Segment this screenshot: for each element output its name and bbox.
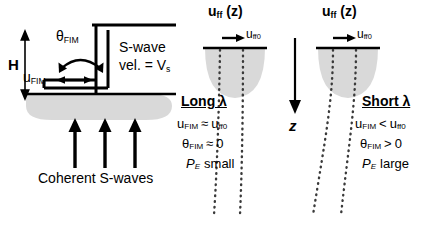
right-panel-header: uff (z) bbox=[322, 4, 357, 19]
shear-velocity-text: vel. = V bbox=[119, 57, 166, 73]
soil-body-left bbox=[26, 94, 172, 120]
translation-subscript: FIM bbox=[31, 76, 46, 86]
condition-rotation-middle: θFIM≈0 bbox=[182, 137, 223, 152]
uff0-subscript-middle: ff0 bbox=[253, 32, 261, 41]
surface-motion-label-middle: uff0 bbox=[246, 28, 261, 41]
wave-arrow bbox=[99, 118, 112, 168]
height-dimension-arrow bbox=[21, 31, 28, 99]
rotation-symbol: θ bbox=[56, 28, 64, 44]
condition-pe-middle: PEsmall bbox=[186, 157, 234, 172]
figure-canvas: H θFIM uFIM S-wave vel. = Vs Coherent S-… bbox=[0, 0, 436, 236]
condition-displacement-middle: uFIM≈uff0 bbox=[177, 117, 227, 132]
condition-displacement-right: uFIM<uff0 bbox=[355, 117, 406, 132]
uff-symbol-middle: u bbox=[208, 3, 217, 19]
uff0-symbol-middle: u bbox=[246, 27, 253, 41]
uff-argument-right: (z) bbox=[336, 3, 356, 19]
soil-swave-label-line2: vel. = Vs bbox=[119, 58, 170, 73]
rotation-subscript: FIM bbox=[64, 35, 79, 45]
middle-panel-header: uff (z) bbox=[208, 4, 243, 19]
case-title-short-lambda: Short λ bbox=[362, 94, 410, 108]
depth-axis-label: z bbox=[289, 118, 297, 133]
shear-velocity-subscript: s bbox=[166, 64, 170, 74]
depth-axis-arrow bbox=[289, 38, 301, 114]
soil-swave-label-line1: S-wave bbox=[119, 40, 166, 54]
uff-argument-middle: (z) bbox=[222, 3, 242, 19]
condition-pe-right: PElarge bbox=[362, 157, 409, 172]
incident-waves-label: Coherent S-waves bbox=[38, 171, 153, 185]
case-title-long-lambda: Long λ bbox=[181, 94, 227, 108]
translation-label: uFIM bbox=[23, 70, 46, 85]
uff0-subscript-right: ff0 bbox=[364, 32, 372, 41]
soil-bowl-right bbox=[318, 48, 378, 98]
soil-bowl-middle bbox=[205, 48, 265, 98]
uff0-symbol-right: u bbox=[357, 27, 364, 41]
uff-symbol-right: u bbox=[322, 3, 331, 19]
surface-motion-arrow-right bbox=[333, 34, 356, 42]
wave-arrow bbox=[69, 118, 82, 168]
translation-double-arrow bbox=[56, 76, 93, 83]
condition-rotation-right: θFIM>0 bbox=[360, 137, 402, 152]
wave-arrow bbox=[129, 118, 142, 168]
incident-wave-arrows bbox=[69, 118, 142, 168]
surface-motion-label-right: uff0 bbox=[357, 28, 372, 41]
surface-motion-arrow-middle bbox=[222, 34, 245, 42]
height-label: H bbox=[8, 57, 19, 72]
rotation-label: θFIM bbox=[56, 29, 79, 44]
translation-symbol: u bbox=[23, 69, 31, 85]
